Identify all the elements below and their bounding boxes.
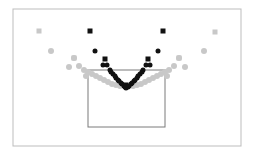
scatter-chart	[0, 0, 253, 158]
data-point	[182, 64, 188, 70]
data-point	[93, 49, 98, 54]
data-point	[201, 48, 207, 54]
data-point	[213, 30, 218, 35]
data-point	[171, 63, 177, 69]
data-point	[124, 83, 129, 88]
data-point	[48, 48, 54, 54]
data-point	[88, 29, 93, 34]
data-point	[113, 74, 118, 79]
data-point	[66, 64, 72, 70]
data-point	[164, 73, 170, 79]
data-point	[76, 63, 82, 69]
data-point	[81, 67, 87, 73]
data-point	[166, 67, 172, 73]
data-point	[148, 63, 153, 68]
data-point	[83, 73, 89, 79]
data-point	[136, 74, 141, 79]
data-point	[105, 63, 110, 68]
data-points	[37, 29, 218, 91]
data-point	[109, 70, 114, 75]
data-point	[156, 49, 161, 54]
data-point	[140, 70, 145, 75]
data-point	[146, 57, 151, 62]
plot-frame	[13, 9, 241, 146]
data-point	[72, 56, 77, 61]
data-point	[177, 56, 182, 61]
data-point	[103, 57, 108, 62]
data-point	[161, 29, 166, 34]
data-point	[37, 29, 42, 34]
